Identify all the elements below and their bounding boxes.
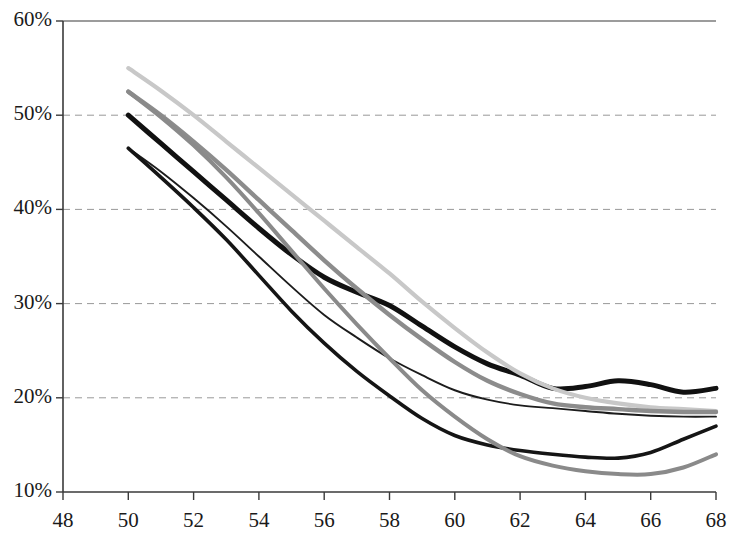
data-series-group bbox=[128, 68, 716, 475]
y-axis-label-40%: 40% bbox=[14, 195, 53, 220]
x-axis-label-56: 56 bbox=[299, 508, 349, 533]
series-line-series-1-thick-black bbox=[128, 115, 716, 392]
x-axis-label-68: 68 bbox=[691, 508, 733, 533]
x-axis-label-52: 52 bbox=[169, 508, 219, 533]
chart-container: 10%20%30%40%50%60% 485052545658606264666… bbox=[0, 0, 733, 537]
line-chart-plot bbox=[0, 0, 733, 537]
x-axis-label-66: 66 bbox=[626, 508, 676, 533]
y-axis-label-60%: 60% bbox=[14, 7, 53, 32]
x-axis-label-60: 60 bbox=[430, 508, 480, 533]
y-axis-label-10%: 10% bbox=[14, 478, 53, 503]
x-axis-label-64: 64 bbox=[560, 508, 610, 533]
series-line-series-2-light-gray bbox=[128, 68, 716, 411]
y-axis-label-20%: 20% bbox=[14, 384, 53, 409]
x-axis-label-58: 58 bbox=[365, 508, 415, 533]
x-axis-label-62: 62 bbox=[495, 508, 545, 533]
tick-mark-group bbox=[56, 21, 716, 500]
y-axis-label-50%: 50% bbox=[14, 101, 53, 126]
x-axis-label-50: 50 bbox=[103, 508, 153, 533]
series-line-series-3-medium-gray bbox=[128, 92, 716, 412]
x-axis-label-48: 48 bbox=[38, 508, 88, 533]
x-axis-label-54: 54 bbox=[234, 508, 284, 533]
y-axis-label-30%: 30% bbox=[14, 290, 53, 315]
